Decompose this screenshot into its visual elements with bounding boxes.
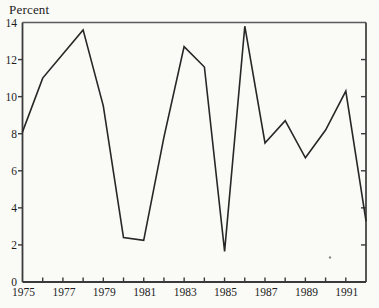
- y-tick-label: 4: [11, 202, 17, 214]
- x-tick-label: 1983: [174, 286, 197, 298]
- x-tick-label: 1991: [335, 286, 358, 298]
- y-tick-label: 8: [11, 128, 17, 140]
- line-chart-figure: Percent 02468101214197519771979198119831…: [0, 0, 379, 308]
- chart-canvas: 0246810121419751977197919811983198519871…: [0, 0, 379, 308]
- ink-speck: [329, 256, 331, 258]
- y-tick-label: 10: [6, 91, 18, 103]
- x-tick-label: 1981: [133, 286, 156, 298]
- x-tick-label: 1977: [52, 286, 75, 298]
- y-tick-label: 2: [11, 239, 17, 251]
- y-axis-title: Percent: [9, 2, 49, 18]
- x-tick-label: 1985: [214, 286, 237, 298]
- y-tick-label: 14: [6, 17, 18, 29]
- x-tick-label: 1979: [93, 286, 116, 298]
- data-line: [23, 26, 367, 251]
- x-tick-label: 1987: [254, 286, 277, 298]
- y-tick-label: 12: [6, 54, 18, 66]
- x-tick-label: 1975: [12, 286, 35, 298]
- y-tick-label: 6: [11, 165, 17, 177]
- x-tick-label: 1989: [295, 286, 318, 298]
